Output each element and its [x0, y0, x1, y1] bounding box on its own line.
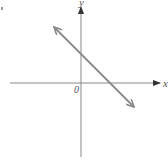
corner-mark	[1, 7, 3, 10]
coordinate-plane: x y 0	[0, 0, 168, 161]
y-axis-label: y	[78, 0, 84, 8]
line-lower-segment	[94, 67, 134, 107]
x-axis-label: x	[162, 77, 168, 89]
origin-label: 0	[74, 84, 79, 95]
line-upper-segment	[54, 27, 94, 67]
